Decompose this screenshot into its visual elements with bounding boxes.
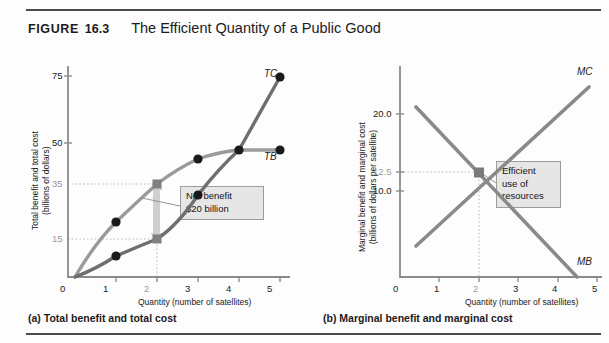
panel-a-caption: (a) Total benefit and total cost: [28, 312, 177, 324]
marker-tb-q5: [275, 145, 284, 154]
panel-a-plot: [0, 48, 305, 333]
figure-header: FIGURE 16.3 The Efficient Quantity of a …: [28, 20, 381, 36]
marker-tc-q3: [193, 190, 202, 199]
curve-marginal-benefit: [416, 107, 577, 277]
curve-total-benefit: [75, 150, 280, 277]
bottom-divider-rule: [26, 333, 601, 335]
marker-efficient-intersection: [474, 168, 484, 178]
panel-total-benefit-total-cost: Total benefit and total cost (billions o…: [0, 48, 305, 333]
figure-container: FIGURE 16.3 The Efficient Quantity of a …: [0, 0, 609, 343]
figure-word-label: FIGURE: [28, 22, 79, 36]
marker-tb-q2-highlight: [153, 180, 162, 189]
figure-title: The Efficient Quantity of a Public Good: [131, 20, 381, 36]
marker-tb-q4: [234, 145, 243, 154]
top-divider-rule: [26, 9, 601, 11]
marker-tb-q3: [193, 154, 202, 163]
panel-b-plot: [305, 48, 609, 333]
figure-number-label: 16.3: [85, 22, 109, 36]
marker-tc-q2-highlight: [153, 235, 162, 244]
panel-b-caption: (b) Marginal benefit and marginal cost: [323, 312, 513, 324]
panel-marginal-benefit-marginal-cost: Marginal benefit and marginal cost (bill…: [305, 48, 609, 333]
curve-marginal-cost: [416, 87, 589, 246]
data-point-markers-panel-a: [111, 72, 284, 260]
curve-total-cost: [75, 77, 280, 277]
marker-tc-q1: [111, 251, 120, 260]
marker-tb-q1: [111, 217, 120, 226]
marker-tc-q5: [275, 72, 284, 81]
callout-leader-net-benefit: [142, 198, 180, 206]
net-benefit-arrow: [151, 182, 164, 241]
